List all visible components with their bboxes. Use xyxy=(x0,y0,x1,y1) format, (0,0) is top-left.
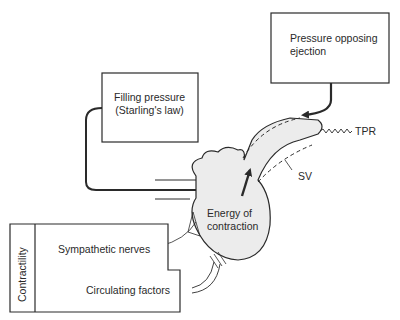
circulating-factors-label: Circulating factors xyxy=(86,284,170,297)
circulating-vessel xyxy=(192,262,220,293)
sympathetic-nerves-label: Sympathetic nerves xyxy=(58,243,150,256)
pressure-arrow xyxy=(303,83,331,115)
tpr-label: TPR xyxy=(355,125,376,138)
contractility-title: Contractility xyxy=(16,247,28,302)
pressure-opposing-label: Pressure opposing ejection xyxy=(290,32,378,57)
heart-shape xyxy=(192,118,322,260)
heart-line2: contraction xyxy=(207,220,258,233)
filling-line1: Filling pressure xyxy=(114,91,185,104)
pressure-line1: Pressure opposing xyxy=(290,32,378,45)
pressure-line2: ejection xyxy=(290,45,378,58)
sv-label: SV xyxy=(298,170,312,183)
heart-label: Energy of contraction xyxy=(207,207,258,232)
filling-line2: (Starling's law) xyxy=(114,104,185,117)
filling-pressure-label: Filling pressure (Starling's law) xyxy=(114,91,185,116)
tpr-resistance xyxy=(320,129,352,133)
heart-line1: Energy of xyxy=(207,207,258,220)
